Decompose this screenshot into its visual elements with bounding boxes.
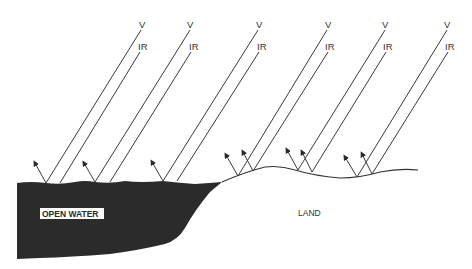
ir-label-4: IR: [325, 41, 335, 52]
v-label-6: V: [444, 19, 451, 30]
reflection-arrow-visible: [287, 150, 298, 170]
v-label-4: V: [325, 19, 332, 30]
visible-ray: [163, 30, 258, 181]
visible-ray: [357, 30, 447, 177]
ray-pair-6: [345, 30, 448, 177]
ir-label-2: IR: [189, 41, 199, 52]
v-label-3: V: [256, 19, 263, 30]
infrared-ray: [110, 52, 191, 182]
open-water-label: OPEN WATER: [42, 209, 99, 219]
reflection-arrow-infrared: [362, 154, 372, 174]
visible-ray: [238, 30, 327, 176]
ir-label-1: IR: [138, 41, 148, 52]
ir-label-6: IR: [445, 41, 455, 52]
reflection-arrow-infrared: [243, 152, 253, 171]
v-label-5: V: [382, 19, 389, 30]
reflection-arrow: [35, 163, 46, 183]
visible-ray: [46, 30, 141, 183]
v-label-1: V: [139, 19, 146, 30]
ir-label-3: IR: [257, 41, 267, 52]
land-label: LAND: [298, 208, 321, 218]
ir-label-5: IR: [383, 41, 393, 52]
reflection-arrow-visible: [226, 155, 238, 176]
reflection-arrow: [84, 163, 95, 182]
infrared-ray: [312, 52, 386, 172]
ray-pair-3: [152, 30, 259, 181]
ray-pair-2: [84, 30, 191, 182]
infrared-ray: [372, 52, 448, 174]
reflection-arrow-visible: [345, 157, 357, 177]
ray-pair-4: [226, 30, 328, 176]
ray-pair-5: [287, 30, 386, 172]
infrared-ray: [60, 52, 140, 183]
open-water-body: [17, 181, 222, 259]
visible-ray: [298, 30, 385, 170]
visible-ray: [95, 30, 190, 182]
infrared-ray: [253, 52, 328, 171]
ray-pair-1: [35, 30, 141, 183]
reflection-arrow: [152, 162, 163, 181]
v-label-2: V: [187, 19, 194, 30]
reflectance-diagram: V IR V IR V IR V IR V IR V IR OPEN WATER…: [0, 0, 472, 269]
